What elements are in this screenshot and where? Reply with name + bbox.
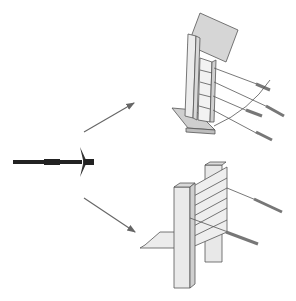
anchor-bolt-icon: [13, 147, 94, 177]
inclined-wall-illustration: [172, 13, 284, 140]
post-plank-wall-illustration: [140, 162, 282, 288]
diagram-canvas: [0, 0, 296, 301]
arrow-to-top-wall-icon: [84, 103, 134, 132]
arrow-to-bottom-wall-icon: [84, 198, 135, 232]
diagram-svg: [0, 0, 296, 301]
